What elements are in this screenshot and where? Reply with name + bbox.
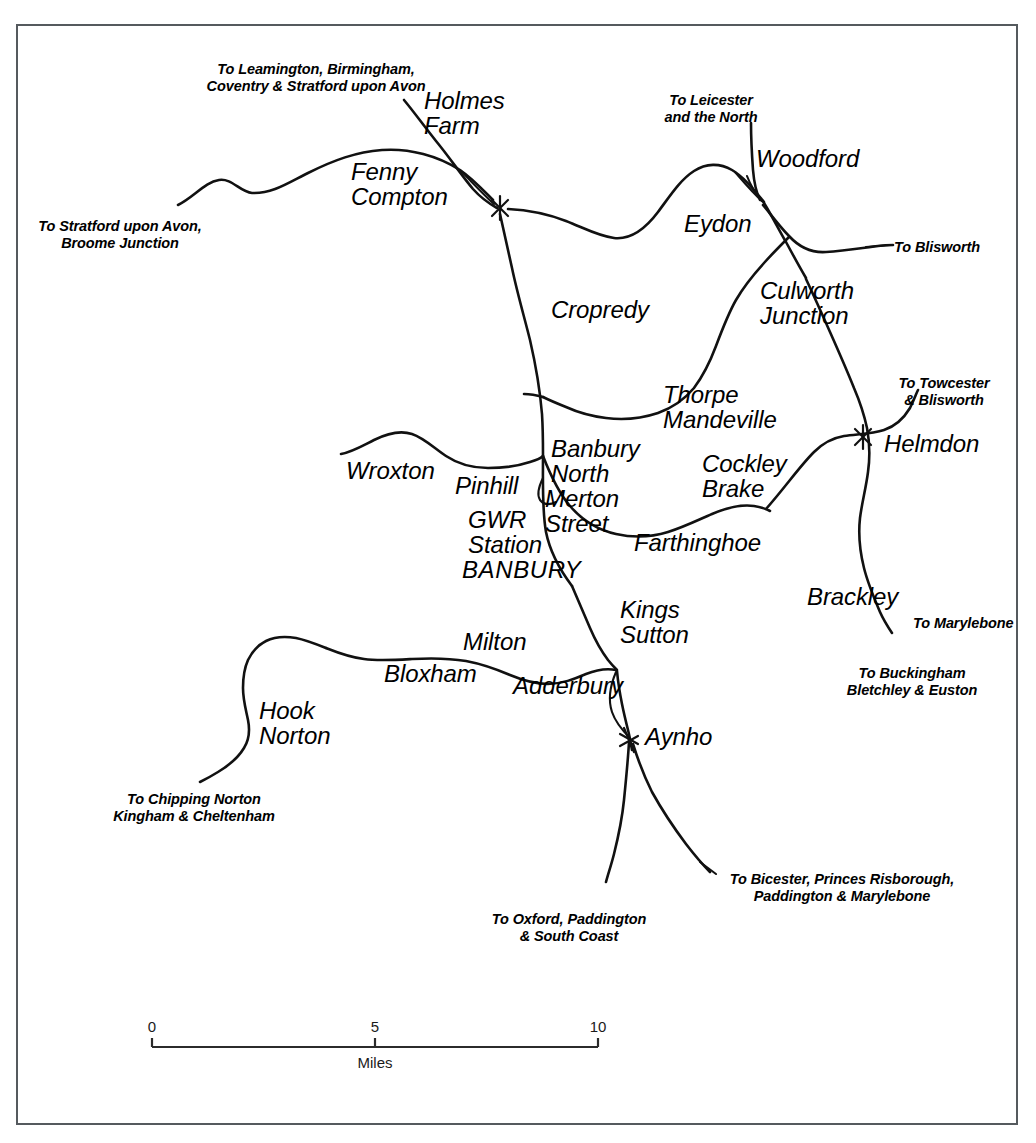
- destination-label-stratford: To Stratford upon Avon, Broome Junction: [32, 218, 208, 252]
- scale-unit-label: Miles: [340, 1054, 410, 1071]
- station-label-merton-street: Merton Street: [545, 486, 619, 537]
- station-label-fenny-compton: Fenny Compton: [351, 159, 448, 210]
- station-label-cockley-brake: Cockley Brake: [702, 451, 787, 502]
- station-label-gwr-station: GWR Station: [468, 507, 542, 558]
- destination-label-buckingham: To Buckingham Bletchley & Euston: [842, 665, 982, 699]
- station-label-holmes-farm: Holmes Farm: [424, 88, 505, 139]
- scale-tick-label-0: 0: [138, 1018, 166, 1035]
- destination-label-towcester: To Towcester & Blisworth: [890, 375, 998, 409]
- station-label-kings-sutton: Kings Sutton: [620, 597, 689, 648]
- station-label-culworth-junction: Culworth Junction: [760, 278, 854, 329]
- station-label-thorpe-mandeville: Thorpe Mandeville: [663, 382, 777, 433]
- scale-tick-label-10: 10: [582, 1018, 614, 1035]
- station-label-woodford: Woodford: [756, 146, 859, 171]
- station-label-pinhill: Pinhill: [455, 473, 518, 498]
- station-label-adderbury: Adderbury: [513, 673, 623, 698]
- station-label-banbury-north: Banbury North: [551, 436, 640, 487]
- destination-label-leamington: To Leamington, Birmingham, Coventry & St…: [202, 61, 430, 95]
- station-label-cropredy: Cropredy: [551, 297, 649, 322]
- destination-label-marylebone: To Marylebone: [913, 615, 1029, 632]
- station-label-eydon: Eydon: [684, 211, 752, 236]
- station-label-bloxham: Bloxham: [384, 661, 477, 686]
- destination-label-blisworth: To Blisworth: [894, 239, 1004, 256]
- destination-label-leicester: To Leicester and the North: [656, 92, 766, 126]
- destination-label-oxford: To Oxford, Paddington & South Coast: [488, 911, 650, 945]
- destination-label-chipping-norton: To Chipping Norton Kingham & Cheltenham: [108, 791, 280, 825]
- station-label-aynho: Aynho: [645, 724, 712, 749]
- town-label-banbury: BANBURY: [462, 557, 581, 582]
- railway-map-root: Holmes Farm Fenny Compton Woodford Eydon…: [0, 0, 1036, 1143]
- destination-label-bicester: To Bicester, Princes Risborough, Padding…: [718, 871, 966, 905]
- station-label-farthinghoe: Farthinghoe: [634, 530, 761, 555]
- station-label-helmdon: Helmdon: [884, 431, 979, 456]
- station-label-hook-norton: Hook Norton: [259, 698, 330, 749]
- station-label-brackley: Brackley: [807, 584, 898, 609]
- station-label-milton: Milton: [463, 629, 526, 654]
- station-label-wroxton: Wroxton: [346, 458, 435, 483]
- scale-tick-label-5: 5: [361, 1018, 389, 1035]
